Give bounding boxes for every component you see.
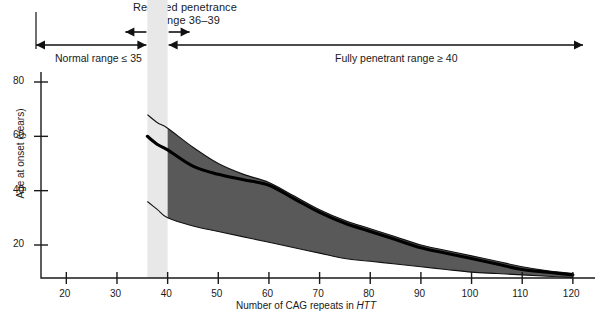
- arrow-head-left: [36, 41, 45, 50]
- x-tick-label: 60: [262, 288, 273, 299]
- x-tick-label: 20: [59, 288, 70, 299]
- arrow-head-left: [169, 41, 178, 50]
- x-tick-label: 50: [211, 288, 222, 299]
- x-tick-label: 40: [161, 288, 172, 299]
- arrow-head-right: [137, 41, 146, 50]
- y-tick-label: 80: [13, 75, 24, 86]
- chart-canvas: [0, 0, 603, 319]
- x-tick-label: 120: [563, 288, 580, 299]
- x-tick-label: 80: [363, 288, 374, 299]
- age-range-band: [147, 115, 573, 278]
- x-tick-label: 30: [110, 288, 121, 299]
- y-tick-label: 40: [13, 184, 24, 195]
- y-tick-label: 60: [13, 129, 24, 140]
- x-tick-label: 70: [313, 288, 324, 299]
- x-tick-label: 110: [512, 288, 528, 299]
- chart-figure: Reduced penetrance range 36–39 Normal ra…: [0, 0, 603, 319]
- x-tick-label: 100: [462, 288, 479, 299]
- arrow-head-left: [125, 28, 134, 37]
- arrow-head-right: [181, 28, 190, 37]
- y-tick-label: 20: [13, 238, 24, 249]
- arrow-head-right: [574, 41, 583, 50]
- x-tick-label: 90: [414, 288, 425, 299]
